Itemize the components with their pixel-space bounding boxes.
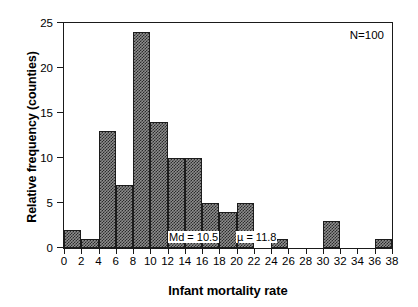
- x-axis-tick-label: 24: [265, 255, 278, 267]
- x-axis-tick-label: 4: [95, 255, 101, 267]
- x-axis-tick-label: 30: [317, 255, 330, 267]
- x-axis-tick: [375, 248, 376, 254]
- histogram-figure: Relative frequency (counties) N=100 Md =…: [0, 0, 418, 307]
- x-axis-tick-label: 20: [230, 255, 243, 267]
- x-axis-tick: [340, 248, 341, 254]
- x-axis-tick: [168, 248, 169, 254]
- plot-area: N=100 Md = 10.5 µ = 11.8 0510152025 0246…: [63, 22, 393, 249]
- histogram-bar: [99, 131, 116, 248]
- histogram-bar: [64, 230, 81, 248]
- x-axis-tick-label: 32: [334, 255, 347, 267]
- x-axis-tick: [116, 248, 117, 254]
- x-axis-tick: [185, 248, 186, 254]
- y-axis-tick: 10: [57, 157, 64, 158]
- x-axis-tick: [254, 248, 255, 254]
- median-annotation: Md = 10.5: [168, 231, 219, 243]
- y-axis-tick: 5: [57, 202, 64, 203]
- x-axis-tick-label: 22: [247, 255, 260, 267]
- y-axis-tick-label: 25: [40, 17, 53, 29]
- x-axis-tick-label: 10: [144, 255, 157, 267]
- x-axis-tick: [202, 248, 203, 254]
- mean-annotation: µ = 11.8: [236, 231, 277, 243]
- x-axis-tick-label: 16: [196, 255, 209, 267]
- y-axis-tick: 20: [57, 67, 64, 68]
- x-axis-tick-label: 34: [351, 255, 364, 267]
- x-axis-tick: [306, 248, 307, 254]
- y-axis-tick: 15: [57, 112, 64, 113]
- x-axis-tick: [133, 248, 134, 254]
- x-axis-tick-label: 18: [213, 255, 226, 267]
- bar-series: [64, 23, 392, 248]
- x-axis-tick: [64, 248, 65, 254]
- x-axis-tick-label: 26: [282, 255, 295, 267]
- histogram-bar: [323, 221, 340, 248]
- x-axis-tick: [150, 248, 151, 254]
- x-axis-tick-label: 36: [368, 255, 381, 267]
- y-axis-tick: 25: [57, 22, 64, 23]
- histogram-bar: [116, 185, 133, 248]
- x-axis-tick-label: 38: [386, 255, 399, 267]
- x-axis-tick-label: 8: [130, 255, 136, 267]
- x-axis-tick-label: 28: [299, 255, 312, 267]
- x-axis-tick: [81, 248, 82, 254]
- histogram-bar: [219, 212, 236, 248]
- x-axis-tick: [392, 248, 393, 254]
- y-axis-tick-label: 0: [47, 242, 53, 254]
- histogram-bar: [150, 122, 167, 248]
- y-axis-tick-label: 10: [40, 152, 53, 164]
- x-axis-tick-label: 12: [161, 255, 174, 267]
- x-axis-tick: [271, 248, 272, 254]
- x-axis-tick: [288, 248, 289, 254]
- x-axis-tick-label: 6: [113, 255, 119, 267]
- histogram-bar: [133, 32, 150, 248]
- y-axis-tick: 0: [57, 247, 64, 248]
- x-axis-tick-label: 14: [178, 255, 191, 267]
- x-axis-tick: [357, 248, 358, 254]
- y-axis-tick-label: 5: [47, 197, 53, 209]
- x-axis-title: Infant mortality rate: [63, 283, 393, 298]
- histogram-bar: [81, 239, 98, 248]
- y-axis-tick-label: 15: [40, 107, 53, 119]
- y-axis-tick-label: 20: [40, 62, 53, 74]
- x-axis-tick-label: 2: [78, 255, 84, 267]
- x-axis-tick: [237, 248, 238, 254]
- x-axis-tick-label: 0: [61, 255, 67, 267]
- x-axis-tick: [99, 248, 100, 254]
- x-axis-tick: [219, 248, 220, 254]
- y-axis-title: Relative frequency (counties): [25, 37, 39, 237]
- x-axis-tick: [323, 248, 324, 254]
- histogram-bar: [375, 239, 392, 248]
